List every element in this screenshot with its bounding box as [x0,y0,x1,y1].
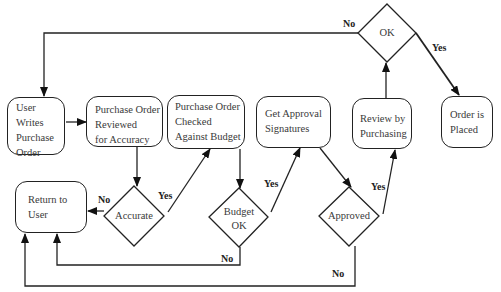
node-text: OK [214,219,264,233]
edge-label-ok-yes: Yes [432,42,446,53]
node-text: User [16,100,64,115]
decision-accurate-label: Accurate [104,209,164,223]
decision-ok-label: OK [367,26,407,40]
node-text: Get Approval [265,106,330,121]
node-text: Purchase [16,130,64,145]
node-text: Purchasing [360,126,411,141]
edge-label-accurate-yes: Yes [158,190,172,201]
node-get-approval-signatures: Get Approval Signatures [256,96,331,148]
node-text: for Accuracy [95,132,162,147]
node-po-checked-against-budget: Purchase Order Checked Against Budget [167,95,245,149]
edge-label-approved-yes: Yes [371,181,385,192]
node-text: Purchase Order [175,99,244,114]
node-order-is-placed: Order is Placed [441,96,493,148]
node-text: Against Budget [175,129,244,144]
node-text: Checked [175,114,244,129]
node-text: Reviewed [95,117,162,132]
edge-label-approved-no: No [332,268,344,279]
node-text: Writes [16,115,64,130]
node-text: Review by [360,111,411,126]
edge-label-budget-yes: Yes [264,178,278,189]
node-text: Budget [214,205,264,219]
node-text: Placed [450,122,492,137]
node-text: Order is [450,107,492,122]
node-text: User [28,207,86,222]
node-review-by-purchasing: Review by Purchasing [352,98,412,149]
node-text: Purchase Order [95,102,162,117]
node-po-reviewed-for-accuracy: Purchase Order Reviewed for Accuracy [86,96,163,147]
decision-approved-label: Approved [319,209,379,223]
node-text: Return to [28,192,86,207]
node-text: Signatures [265,121,330,136]
node-user-writes-purchase-order: User Writes Purchase Order [7,97,65,155]
node-text: Order [16,145,64,160]
decision-budget-ok-label: Budget OK [214,205,264,233]
edge-label-accurate-no: No [98,194,110,205]
edge-label-ok-no: No [343,18,355,29]
edge-label-budget-no: No [221,253,233,264]
node-return-to-user: Return to User [15,181,87,233]
flowchart-connectors [0,0,501,292]
